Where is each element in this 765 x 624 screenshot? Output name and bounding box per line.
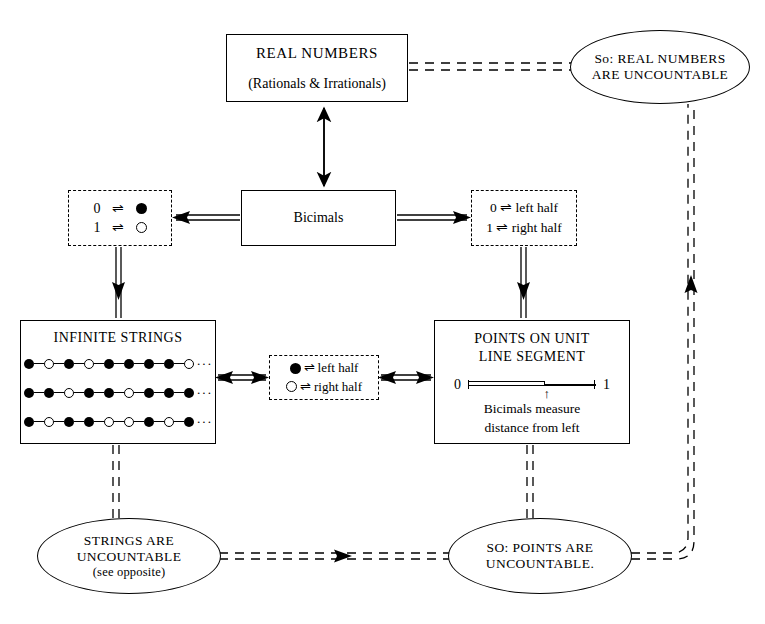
string-row: ··· [24,385,213,401]
open-dot-icon [44,359,54,369]
string-segment [54,392,64,393]
unit-right-label: 1 [603,377,610,393]
filled-dot-icon [164,388,174,398]
map-mid-line: ⇌ left half [290,359,359,378]
open-dot-icon [104,417,114,427]
unit-marker-arrow-icon: ↑ [544,387,551,400]
connector-bicimals-to-map-left [172,211,240,224]
filled-dot-icon [184,417,194,427]
string-segment [34,421,44,422]
string-ellipsis: ··· [197,385,213,401]
filled-dot-icon [144,388,154,398]
connector-strings-to-map-mid [215,371,269,384]
string-segment [134,421,144,422]
conclusion-strings-line-3: (see opposite) [93,565,166,580]
map-mid-line-1-relation: ⇌ [300,378,311,397]
string-segment [34,392,44,393]
connector-points-concl-to-real-concl [631,104,698,559]
conclusion-points-uncountable: SO: POINTS ARE UNCOUNTABLE. [448,518,632,594]
connector-real-to-conclusion [409,63,572,70]
map-left-row: 0 ⇌ [94,200,147,218]
map-left-box: 0 ⇌ 1 ⇌ [68,190,172,246]
string-segment [114,363,124,364]
map-left-row-1-relation: ⇌ [112,219,125,237]
filled-dot-icon [24,388,34,398]
open-dot-icon [136,222,147,233]
filled-dot-icon [104,359,114,369]
filled-dot-icon [184,388,194,398]
conclusion-points-line-2: UNCOUNTABLE. [486,556,594,572]
string-segment [54,363,64,364]
filled-dot-icon [84,388,94,398]
filled-dot-icon [84,417,94,427]
unit-left-label: 0 [454,377,461,393]
string-ellipsis: ··· [197,414,213,430]
filled-dot-icon [24,359,34,369]
string-segment [174,421,184,422]
string-segment [114,392,124,393]
conclusion-real-line-2: ARE UNCOUNTABLE [592,67,729,83]
conclusion-points-line-1: SO: POINTS ARE [487,540,594,556]
open-dot-icon [124,388,134,398]
filled-dot-icon [124,359,134,369]
map-left-row-0-relation: ⇌ [112,200,125,218]
string-segment [74,392,84,393]
string-row: ··· [24,414,213,430]
open-dot-icon [44,417,54,427]
string-segment [154,392,164,393]
unit-tick-left [468,380,469,389]
conclusion-strings-uncountable: STRINGS ARE UNCOUNTABLE (see opposite) [37,518,221,594]
conclusion-real-uncountable: So: REAL NUMBERS ARE UNCOUNTABLE [570,30,750,104]
filled-dot-icon [144,417,154,427]
conclusion-strings-line-2: UNCOUNTABLE [77,549,182,565]
string-segment [174,392,184,393]
string-segment [94,392,104,393]
points-title-line-1: POINTS ON UNIT [474,330,589,348]
string-segment [94,421,104,422]
points-box: POINTS ON UNIT LINE SEGMENT 0 ↑ 1 Bicima… [434,320,630,444]
open-dot-icon [184,359,194,369]
bicimals-label: Bicimals [294,210,344,226]
string-ellipsis: ··· [197,356,213,372]
map-mid-line-1-text: right half [314,378,362,397]
unit-line-measured-part [468,381,545,386]
map-mid-line-0-relation: ⇌ [304,359,315,378]
map-right-box: 0 ⇌ left half 1 ⇌ right half [471,190,577,246]
map-right-line-1: 1 ⇌ right half [486,218,561,238]
map-right-line-0: 0 ⇌ left half [490,198,558,218]
map-left-row: 1 ⇌ [94,219,147,237]
unit-segment: 0 ↑ 1 [435,377,629,393]
diagram-canvas: REAL NUMBERS (Rationals & Irrationals) B… [0,0,765,624]
string-segment [74,363,84,364]
connector-strings-concl-to-points-concl [219,550,450,563]
open-dot-icon [164,417,174,427]
open-dot-icon [124,417,134,427]
filled-dot-icon [136,203,147,214]
conclusion-strings-line-1: STRINGS ARE [84,533,174,549]
string-row: ··· [24,356,213,372]
string-segment [94,363,104,364]
connector-map-mid-to-points [378,371,434,384]
filled-dot-icon [64,359,74,369]
string-segment [74,421,84,422]
real-numbers-box: REAL NUMBERS (Rationals & Irrationals) [226,34,408,102]
open-dot-icon [64,388,74,398]
real-numbers-title: REAL NUMBERS [256,45,378,62]
points-title-line-2: LINE SEGMENT [479,348,585,366]
string-segment [114,421,124,422]
map-left-row-1-left: 1 [94,219,101,237]
infinite-strings-box: INFINITE STRINGS ········· [20,320,216,444]
unit-line: ↑ [468,378,596,392]
connector-points-to-conclusion [527,445,533,523]
string-segment [154,421,164,422]
filled-dot-icon [104,388,114,398]
filled-dot-icon [24,417,34,427]
real-numbers-subtitle: (Rationals & Irrationals) [248,76,386,92]
string-segment [34,363,44,364]
string-segment [134,363,144,364]
open-dot-icon [286,381,297,392]
map-mid-box: ⇌ left half ⇌ right half [269,355,379,400]
filled-dot-icon [144,359,154,369]
infinite-strings-rows: ········· [21,356,215,430]
unit-tick-right [594,380,595,389]
